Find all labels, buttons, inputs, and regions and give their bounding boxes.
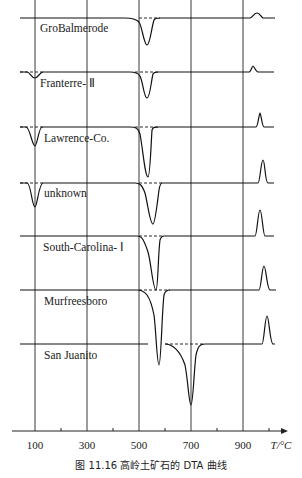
gridlines bbox=[35, 0, 243, 431]
tick-900: 900 bbox=[235, 439, 252, 451]
curve-labels: GroBalmerode Franterre- Ⅱ Lawrence-Co. u… bbox=[40, 22, 124, 361]
label-southcarolina: South-Carolina- Ⅰ bbox=[43, 241, 124, 253]
label-sanjuanito: San Juanito bbox=[44, 349, 98, 361]
label-grobalmerode: GroBalmerode bbox=[40, 22, 108, 34]
label-franterre: Franterre- Ⅱ bbox=[40, 77, 95, 89]
label-unknown: unknown bbox=[44, 187, 87, 199]
tick-100: 100 bbox=[27, 439, 44, 451]
label-murfreesboro: Murfreesboro bbox=[44, 295, 107, 307]
figure-caption: 图 11.16 高岭土矿石的 DTA 曲线 bbox=[75, 459, 226, 471]
tick-700: 700 bbox=[183, 439, 200, 451]
curves bbox=[20, 13, 276, 405]
label-lawrence: Lawrence-Co. bbox=[44, 132, 110, 144]
curve-lawrence bbox=[20, 113, 274, 177]
x-axis-unit-label: T/°C bbox=[271, 439, 293, 451]
tick-300: 300 bbox=[79, 439, 96, 451]
dta-chart: GroBalmerode Franterre- Ⅱ Lawrence-Co. u… bbox=[0, 0, 302, 478]
x-axis bbox=[12, 428, 288, 434]
x-tick-labels: 100 300 500 700 900 T/°C bbox=[27, 439, 292, 451]
tick-500: 500 bbox=[131, 439, 148, 451]
